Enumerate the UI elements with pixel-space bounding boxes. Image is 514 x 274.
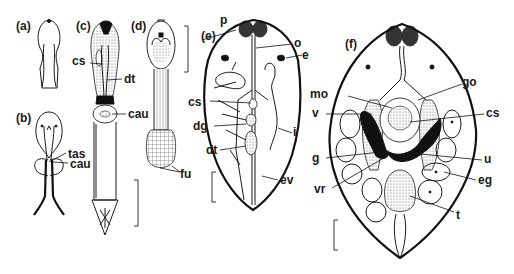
label-e-p: p [220, 14, 227, 26]
label-c-cs: cs [72, 55, 85, 67]
label-c-cau: cau [128, 108, 149, 120]
label-f-mo: mo [310, 88, 328, 100]
panel-label-b: (b) [16, 112, 31, 124]
panel-label-d: (d) [131, 20, 146, 32]
scale-bar-c [134, 180, 138, 226]
panel-c-drawing [90, 21, 126, 235]
label-f-g: g [312, 152, 319, 164]
panel-label-e: (e) [201, 30, 216, 42]
diagram-drawings [0, 0, 514, 274]
label-f-vr: vr [314, 183, 325, 195]
figure-canvas: (a) (b) (c) (d) (e) (f) tas cau cs dt ca… [0, 0, 514, 274]
panel-label-a: (a) [16, 20, 31, 32]
label-f-go: go [462, 76, 477, 88]
label-e-ev: ev [280, 174, 293, 186]
label-f-eg: eg [478, 174, 492, 186]
label-e-cs: cs [188, 96, 201, 108]
panel-a-drawing [38, 20, 60, 89]
panel-d-drawing [146, 20, 188, 172]
panel-label-f: (f) [345, 38, 357, 50]
label-f-u: u [484, 153, 491, 165]
label-f-v: v [312, 107, 319, 119]
panel-b-drawing [34, 112, 68, 215]
panel-f-drawing [326, 24, 484, 258]
label-b-cau: cau [70, 158, 91, 170]
label-e-i: i [293, 126, 296, 138]
label-e-e: e [302, 49, 309, 61]
label-e-dt: dt [206, 144, 217, 156]
label-c-dt: dt [124, 73, 135, 85]
label-d-fu: fu [180, 168, 191, 180]
label-e-dg: dg [193, 120, 208, 132]
panel-label-c: (c) [76, 20, 91, 32]
label-f-cs: cs [486, 107, 499, 119]
label-f-t: t [456, 209, 460, 221]
label-e-o: o [294, 37, 301, 49]
